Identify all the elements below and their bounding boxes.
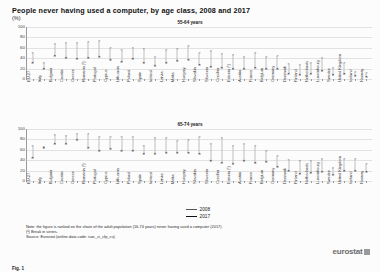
marker-2017: × bbox=[109, 147, 111, 151]
marker-2008: × bbox=[54, 133, 56, 137]
x-axis-tick-mark bbox=[255, 181, 256, 183]
x-axis-tick-label: France bbox=[248, 171, 253, 183]
x-axis-tick-mark bbox=[255, 79, 256, 81]
x-axis-tick-mark bbox=[300, 181, 301, 183]
marker-2008: × bbox=[165, 136, 167, 140]
marker-2008: × bbox=[298, 63, 300, 67]
x-axis-tick-mark bbox=[233, 79, 234, 81]
x-axis-tick-mark bbox=[133, 181, 134, 183]
marker-2008: × bbox=[31, 144, 33, 148]
x-axis-tick-mark bbox=[199, 181, 200, 183]
x-axis-tick-label: Greece bbox=[70, 171, 75, 184]
figure-caption: Fig. 1 bbox=[12, 266, 24, 271]
x-axis-tick-mark bbox=[55, 181, 56, 183]
marker-2008: × bbox=[198, 51, 200, 55]
marker-2017: × bbox=[87, 56, 89, 60]
x-axis-tick-mark bbox=[44, 181, 45, 183]
marker-2008: × bbox=[31, 51, 33, 55]
marker-2017: × bbox=[98, 55, 100, 59]
marker-2017: × bbox=[176, 151, 178, 155]
marker-2017: × bbox=[187, 58, 189, 62]
x-axis-tick-label: Malta bbox=[170, 174, 175, 184]
marker-2017: × bbox=[243, 66, 245, 70]
x-axis-tick-label: Greece bbox=[70, 69, 75, 82]
x-axis-tick-label: Denmark bbox=[281, 168, 286, 184]
x-axis-tick-mark bbox=[188, 79, 189, 81]
x-axis-tick-label: Portugal bbox=[92, 67, 97, 81]
x-axis-tick-mark bbox=[266, 181, 267, 183]
x-axis-tick-mark bbox=[177, 79, 178, 81]
marker-2017: × bbox=[143, 152, 145, 156]
x-axis-tick-label: Latvia bbox=[159, 173, 164, 183]
x-axis-tick-label: Norway bbox=[359, 170, 364, 183]
marker-2017: × bbox=[332, 173, 334, 177]
x-axis-tick-label: Slovenia bbox=[203, 67, 208, 82]
data-column: ××EU-27 bbox=[27, 27, 38, 79]
x-axis-tick-mark bbox=[211, 181, 212, 183]
x-axis-tick-mark bbox=[166, 181, 167, 183]
marker-2017: × bbox=[287, 168, 289, 172]
x-axis-tick-label: Portugal bbox=[92, 169, 97, 183]
x-axis-tick-label: Austria bbox=[237, 69, 242, 81]
y-axis-tick-label: 40 bbox=[20, 56, 25, 60]
marker-2008: × bbox=[143, 47, 145, 51]
plot-area-55-64: 020406080100××EU-27××Italy××Bulgaria××Cr… bbox=[26, 27, 372, 80]
marker-2017: × bbox=[65, 56, 67, 60]
marker-2017: × bbox=[321, 69, 323, 73]
marker-2017: × bbox=[65, 141, 67, 145]
marker-2017: × bbox=[131, 149, 133, 153]
footnote-source: Source: Eurostat (online data code: isoc… bbox=[26, 234, 223, 239]
x-axis-tick-label: Luxembourg bbox=[314, 60, 319, 82]
y-axis-tick-label: 20 bbox=[20, 66, 25, 70]
marker-2017: × bbox=[131, 57, 133, 61]
x-axis-tick-mark bbox=[55, 79, 56, 81]
marker-2017: × bbox=[287, 72, 289, 76]
x-axis-tick-label: Iceland bbox=[348, 69, 353, 82]
marker-2008: × bbox=[176, 139, 178, 143]
marker-2008: × bbox=[321, 56, 323, 60]
plot-area-65-74: 020406080100××EU-27××Italy××Bulgaria××Cr… bbox=[26, 129, 372, 182]
x-axis-tick-mark bbox=[233, 181, 234, 183]
marker-2017: × bbox=[254, 65, 256, 69]
marker-2017: × bbox=[176, 59, 178, 63]
x-axis-tick-mark bbox=[66, 79, 67, 81]
marker-2008: × bbox=[176, 47, 178, 51]
x-axis-tick-label: Ireland bbox=[147, 70, 152, 82]
marker-2008: × bbox=[209, 141, 211, 145]
x-axis-tick-label: EU-27 bbox=[25, 70, 30, 81]
marker-2017: × bbox=[87, 146, 89, 150]
x-axis-tick-mark bbox=[311, 79, 312, 81]
x-axis-tick-mark bbox=[88, 79, 89, 81]
y-axis-tick-label: 40 bbox=[20, 158, 25, 162]
x-axis-tick-mark bbox=[155, 79, 156, 81]
x-axis-tick-label: Slovenia bbox=[203, 169, 208, 184]
marker-2017: × bbox=[332, 73, 334, 77]
marker-2017: × bbox=[354, 74, 356, 78]
marker-2017: × bbox=[76, 57, 78, 61]
marker-2008: × bbox=[76, 132, 78, 136]
x-axis-tick-mark bbox=[144, 79, 145, 81]
x-axis-tick-label: Netherlands bbox=[303, 163, 308, 184]
marker-2017: × bbox=[321, 170, 323, 174]
x-axis-tick-label: Sweden bbox=[326, 67, 331, 81]
data-column: ××Norway bbox=[361, 129, 372, 181]
x-axis-tick-mark bbox=[122, 181, 123, 183]
y-axis-tick-label: 80 bbox=[20, 35, 25, 39]
x-axis-tick-label: Czechia bbox=[214, 169, 219, 183]
x-axis-tick-mark bbox=[333, 79, 334, 81]
marker-2017: × bbox=[54, 53, 56, 57]
marker-2017: × bbox=[120, 149, 122, 153]
marker-2017: × bbox=[265, 66, 267, 70]
x-axis-tick-label: Luxembourg bbox=[314, 162, 319, 184]
legend-swatch-2008 bbox=[186, 209, 197, 210]
x-axis-tick-label: Bulgaria bbox=[47, 169, 52, 183]
x-axis-tick-label: Cyprus bbox=[103, 69, 108, 81]
x-axis-tick-label: Bulgaria bbox=[47, 67, 52, 81]
x-axis-tick-mark bbox=[199, 79, 200, 81]
marker-2008: × bbox=[98, 135, 100, 139]
marker-2008: × bbox=[254, 144, 256, 148]
y-axis-tick-label: 100 bbox=[18, 127, 25, 131]
legend-label-2017: 2017 bbox=[200, 213, 211, 221]
x-axis-tick-label: Spain bbox=[136, 72, 141, 82]
marker-2017: × bbox=[42, 66, 44, 70]
